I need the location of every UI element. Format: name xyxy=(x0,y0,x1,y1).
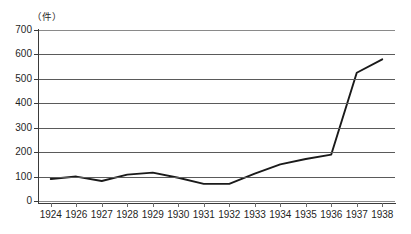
y-tick-mark xyxy=(34,201,38,202)
y-tick-label: 700 xyxy=(2,25,32,35)
x-tick-mark xyxy=(204,203,205,207)
plot-area xyxy=(38,30,395,201)
y-tick-label: 100 xyxy=(2,172,32,182)
x-tick-label: 1929 xyxy=(140,209,166,220)
y-tick-mark xyxy=(34,54,38,55)
x-tick-mark xyxy=(178,203,179,207)
x-tick-mark xyxy=(127,203,128,207)
gridline-400 xyxy=(38,103,395,104)
gridline-700 xyxy=(38,30,395,31)
x-tick-label: 1936 xyxy=(318,209,344,220)
x-tick-label: 1934 xyxy=(267,209,293,220)
x-tick-mark xyxy=(306,203,307,207)
gridline-0 xyxy=(38,201,395,202)
x-tick-mark xyxy=(51,203,52,207)
x-tick-label: 1932 xyxy=(216,209,242,220)
y-tick-mark xyxy=(34,128,38,129)
line-chart: （件） 010020030040050060070019241926192719… xyxy=(0,0,411,234)
x-tick-label: 1928 xyxy=(114,209,140,220)
y-tick-mark xyxy=(34,79,38,80)
y-tick-label: 200 xyxy=(2,147,32,157)
x-tick-mark xyxy=(76,203,77,207)
x-tick-mark xyxy=(357,203,358,207)
x-tick-mark xyxy=(280,203,281,207)
x-tick-label: 1924 xyxy=(38,209,64,220)
y-tick-label: 500 xyxy=(2,74,32,84)
x-tick-mark xyxy=(229,203,230,207)
x-tick-label: 1938 xyxy=(369,209,395,220)
y-tick-label: 0 xyxy=(2,196,32,206)
gridline-500 xyxy=(38,79,395,80)
y-tick-label: 300 xyxy=(2,123,32,133)
y-tick-label: 600 xyxy=(2,49,32,59)
x-tick-label: 1927 xyxy=(89,209,115,220)
y-tick-mark xyxy=(34,177,38,178)
x-tick-mark xyxy=(382,203,383,207)
x-tick-label: 1937 xyxy=(344,209,370,220)
x-tick-mark xyxy=(255,203,256,207)
x-tick-label: 1931 xyxy=(191,209,217,220)
x-tick-mark xyxy=(102,203,103,207)
gridline-600 xyxy=(38,54,395,55)
series-line-svg xyxy=(38,30,395,201)
y-tick-mark xyxy=(34,103,38,104)
y-tick-mark xyxy=(34,30,38,31)
x-tick-label: 1930 xyxy=(165,209,191,220)
y-axis-unit-label: （件） xyxy=(32,9,62,23)
gridline-100 xyxy=(38,177,395,178)
x-tick-mark xyxy=(331,203,332,207)
x-tick-label: 1933 xyxy=(242,209,268,220)
gridline-200 xyxy=(38,152,395,153)
y-tick-mark xyxy=(34,152,38,153)
x-axis-line xyxy=(38,203,396,204)
y-tick-label: 400 xyxy=(2,98,32,108)
x-tick-label: 1935 xyxy=(293,209,319,220)
y-axis-line xyxy=(38,29,39,204)
x-tick-mark xyxy=(153,203,154,207)
x-tick-label: 1926 xyxy=(63,209,89,220)
gridline-300 xyxy=(38,128,395,129)
